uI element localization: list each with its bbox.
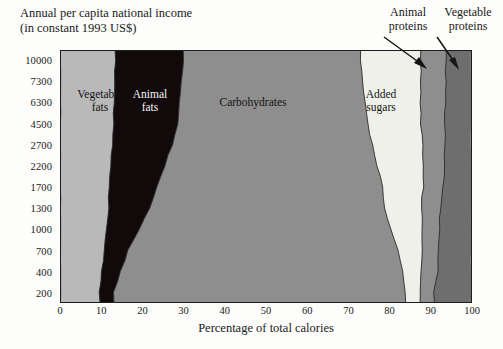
- callout-animal-proteins-line-2: proteins: [389, 20, 428, 34]
- y-axis-tick-label: 6300: [31, 97, 52, 108]
- chart-title-line-2: (in constant 1993 US$): [20, 21, 192, 36]
- callout-animal-proteins: Animal proteins: [389, 6, 428, 33]
- x-axis-tick-label: 60: [302, 305, 313, 316]
- plot-area: [60, 50, 472, 303]
- x-axis-tick-labels: 0102030405060708090100: [60, 305, 472, 321]
- x-axis-tick-label: 70: [343, 305, 354, 316]
- x-axis-tick-label: 10: [96, 305, 107, 316]
- y-axis-tick-label: 200: [36, 288, 52, 299]
- x-axis-tick-label: 0: [57, 305, 62, 316]
- y-axis-tick-labels: 1000073006300450027002200170013001000700…: [0, 50, 56, 303]
- y-axis-tick-label: 700: [36, 245, 52, 256]
- chart-title-line-1: Annual per capita national income: [20, 6, 192, 21]
- y-axis-tick-label: 2700: [31, 139, 52, 150]
- y-axis-tick-label: 2200: [31, 160, 52, 171]
- y-axis-tick-label: 1700: [31, 182, 52, 193]
- y-axis-tick-label: 10000: [25, 55, 52, 66]
- x-axis-tick-label: 50: [261, 305, 272, 316]
- chart-title: Annual per capita national income (in co…: [20, 6, 192, 36]
- y-axis-tick-label: 4500: [31, 118, 52, 129]
- x-axis-tick-label: 90: [426, 305, 437, 316]
- y-axis-tick-label: 7300: [31, 76, 52, 87]
- x-axis-tick-label: 80: [384, 305, 395, 316]
- band-shapes: [61, 51, 471, 302]
- callout-vegetable-proteins-line-2: proteins: [444, 20, 491, 34]
- y-axis-tick-label: 400: [36, 266, 52, 277]
- x-axis-tick-label: 20: [137, 305, 148, 316]
- x-axis-tick-label: 30: [178, 305, 189, 316]
- x-axis-tick-label: 40: [220, 305, 231, 316]
- x-axis-tick-label: 100: [464, 305, 480, 316]
- chart-figure: Annual per capita national income (in co…: [0, 0, 503, 349]
- x-axis-title: Percentage of total calories: [60, 321, 472, 336]
- y-axis-tick-label: 1300: [31, 203, 52, 214]
- stacked-band-areas: [61, 51, 471, 302]
- callout-vegetable-proteins: Vegetable proteins: [444, 6, 491, 33]
- callout-animal-proteins-line-1: Animal: [390, 5, 426, 19]
- callout-vegetable-proteins-line-1: Vegetable: [444, 5, 491, 19]
- y-axis-tick-label: 1000: [31, 224, 52, 235]
